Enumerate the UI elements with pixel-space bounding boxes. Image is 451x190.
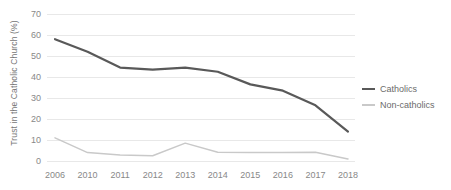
series-line-non-catholics <box>55 138 348 159</box>
y-axis-tick-label: 10 <box>31 135 41 145</box>
x-axis-tick-labels: 2006201020112012201320142015201620172018 <box>45 170 358 180</box>
y-axis-tick-label: 30 <box>31 93 41 103</box>
x-axis-tick-label: 2012 <box>143 170 163 180</box>
y-axis-tick-label: 0 <box>36 156 41 166</box>
x-axis-tick-label: 2016 <box>273 170 293 180</box>
legend-swatch-catholics <box>362 88 375 90</box>
x-axis-tick-label: 2006 <box>45 170 65 180</box>
x-axis-tick-label: 2017 <box>305 170 325 180</box>
legend-item-non-catholics[interactable]: Non-catholics <box>362 97 450 113</box>
x-axis-tick-label: 2010 <box>78 170 98 180</box>
line-chart: Trust in the Catholic Church (%) 0102030… <box>0 0 451 190</box>
y-axis-tick-label: 20 <box>31 114 41 124</box>
y-axis-tick-label: 60 <box>31 30 41 40</box>
y-axis-tick-label: 70 <box>31 9 41 19</box>
x-axis-tick-label: 2014 <box>208 170 228 180</box>
y-axis-tick-label: 40 <box>31 72 41 82</box>
y-axis-tick-labels: 010203040506070 <box>31 9 41 166</box>
legend-label-catholics: Catholics <box>380 81 417 97</box>
chart-legend: Catholics Non-catholics <box>362 81 450 113</box>
legend-item-catholics[interactable]: Catholics <box>362 81 450 97</box>
x-axis-tick-label: 2015 <box>240 170 260 180</box>
y-axis-tick-label: 50 <box>31 51 41 61</box>
x-axis-tick-label: 2011 <box>110 170 129 180</box>
gridlines <box>47 15 355 162</box>
legend-swatch-non-catholics <box>362 104 375 106</box>
x-axis-tick-label: 2018 <box>338 170 358 180</box>
series-line-catholics <box>55 39 348 131</box>
x-axis-tick-label: 2013 <box>175 170 195 180</box>
legend-label-non-catholics: Non-catholics <box>380 97 435 113</box>
